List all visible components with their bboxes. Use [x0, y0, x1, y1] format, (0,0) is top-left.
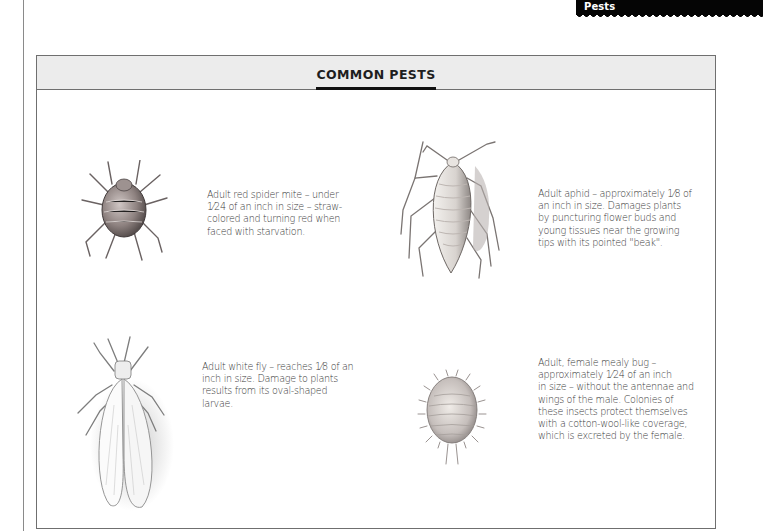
aphid-caption: Adult aphid – approximately 1⁄8 of an in…	[538, 188, 703, 249]
mealy-bug-caption: Adult, female mealy bug – approximately …	[538, 357, 703, 442]
section-tab: Pests	[576, 0, 763, 15]
mealy-bug-illustration	[412, 368, 492, 468]
white-fly-caption: Adult white fly – reaches 1⁄8 of an inch…	[202, 361, 362, 410]
section-tab-scallop-edge	[576, 14, 763, 18]
aphid-illustration	[395, 138, 510, 283]
panel-title: COMMON PESTS	[37, 67, 715, 84]
page-margin-rule	[23, 0, 24, 531]
red-spider-mite-caption: Adult red spider mite – under 1⁄24 of an…	[207, 189, 367, 238]
panel-header: COMMON PESTS	[37, 56, 715, 90]
section-tab-label: Pests	[584, 1, 615, 12]
white-fly-illustration	[70, 335, 180, 515]
red-spider-mite-illustration	[72, 160, 177, 265]
